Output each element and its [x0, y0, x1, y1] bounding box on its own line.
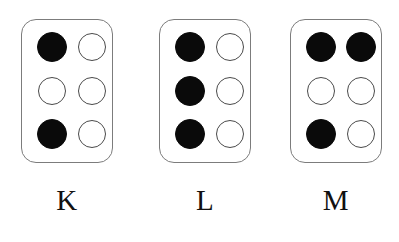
braille-dot-4-flat — [78, 33, 106, 61]
braille-dot-5-flat — [78, 77, 106, 105]
braille-dot-6-flat — [216, 120, 244, 148]
braille-dot-grid — [22, 20, 112, 162]
braille-cell-label: M — [275, 183, 397, 217]
braille-cell-outline — [290, 19, 382, 163]
braille-cell-outline — [159, 19, 251, 163]
braille-dot-grid — [160, 20, 250, 162]
braille-cell-outline — [21, 19, 113, 163]
braille-cell-k: K — [6, 0, 136, 242]
braille-dot-6-flat — [347, 120, 375, 148]
braille-dot-1-raised — [175, 32, 205, 62]
braille-dot-2-raised — [175, 76, 205, 106]
braille-cells-row: KLM — [0, 0, 399, 242]
braille-dot-6-flat — [78, 120, 106, 148]
braille-cell-m: M — [275, 0, 399, 242]
braille-dot-1-raised — [306, 32, 336, 62]
braille-dot-3-raised — [175, 119, 205, 149]
braille-cell-label: K — [6, 183, 128, 217]
braille-dot-2-flat — [38, 77, 66, 105]
braille-dot-4-flat — [216, 33, 244, 61]
braille-dot-2-flat — [307, 77, 335, 105]
braille-dot-4-raised — [346, 32, 376, 62]
braille-dot-5-flat — [347, 77, 375, 105]
braille-cell-label: L — [144, 183, 266, 217]
braille-cell-l: L — [144, 0, 274, 242]
braille-figure: KLM — [0, 0, 399, 242]
braille-dot-5-flat — [216, 77, 244, 105]
braille-dot-grid — [291, 20, 381, 162]
braille-dot-3-raised — [37, 119, 67, 149]
braille-dot-1-raised — [37, 32, 67, 62]
braille-dot-3-raised — [306, 119, 336, 149]
